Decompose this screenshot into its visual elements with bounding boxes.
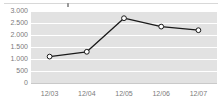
y-axis-tick-label: 1.000 — [0, 55, 28, 62]
x-axis-tick-label: 12/05 — [115, 90, 133, 98]
series-line-path — [50, 18, 199, 56]
series-1-line — [31, 11, 217, 83]
line-chart-widget: 3.0002.5002.0001.5001.0005000 12/0312/04… — [0, 0, 221, 105]
x-axis-line — [31, 83, 217, 84]
data-point-marker[interactable] — [159, 24, 164, 29]
y-axis-tick-label: 1.500 — [0, 43, 28, 50]
top-divider-tick — [67, 3, 69, 7]
y-axis-tick-label: 2.500 — [0, 19, 28, 26]
x-axis-tick-label: 12/06 — [152, 90, 170, 98]
data-point-marker[interactable] — [122, 16, 127, 21]
y-axis-tick-label: 500 — [0, 67, 28, 74]
x-axis-tick-label: 12/03 — [41, 90, 59, 98]
y-axis-tick-label: 2.000 — [0, 31, 28, 38]
x-axis-tick-label: 12/07 — [190, 90, 208, 98]
x-axis-labels: 12/0312/0412/0512/0612/07 — [31, 90, 217, 102]
y-axis-labels: 3.0002.5002.0001.5001.0005000 — [0, 0, 28, 105]
data-point-marker[interactable] — [84, 49, 89, 54]
y-axis-tick-label: 3.000 — [0, 7, 28, 14]
x-axis-tick-label: 12/04 — [78, 90, 96, 98]
top-divider-rule — [4, 3, 218, 4]
y-axis-tick-label: 0 — [0, 79, 28, 86]
data-point-marker[interactable] — [47, 54, 52, 59]
data-point-marker[interactable] — [196, 28, 201, 33]
